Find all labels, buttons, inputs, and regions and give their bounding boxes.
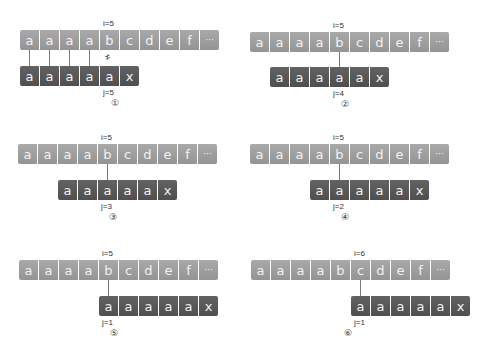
text-cell: ··· [431, 260, 450, 280]
text-cell: a [291, 260, 310, 280]
i-pointer-label: i=5 [333, 133, 344, 142]
pattern-cell: a [98, 180, 117, 200]
text-cell: a [39, 260, 58, 280]
match-connector [89, 50, 90, 66]
pattern-cell: a [350, 67, 369, 87]
step-number: ③ [109, 212, 117, 222]
text-cell: a [250, 144, 269, 164]
compare-connector [107, 164, 108, 180]
pattern-cell: a [78, 180, 97, 200]
mismatch-symbol: ≠ [103, 51, 111, 62]
text-cell: c [120, 30, 139, 50]
pattern-cell: a [310, 67, 329, 87]
text-cell: a [270, 32, 289, 52]
compare-connector [339, 164, 340, 180]
text-cell: a [271, 260, 290, 280]
pattern-cell: a [40, 66, 59, 86]
pattern-cell: x [199, 296, 218, 316]
text-cell: b [100, 30, 119, 50]
pattern-cell: a [60, 66, 79, 86]
text-cell: e [158, 144, 177, 164]
pattern-cell: a [390, 180, 409, 200]
pattern-cell: a [290, 67, 309, 87]
j-pointer-label: j=4 [333, 89, 344, 98]
j-pointer-label: j=3 [101, 202, 112, 211]
text-cell: c [350, 144, 369, 164]
text-cell: c [351, 260, 370, 280]
j-pointer-label: j=2 [333, 202, 344, 211]
pattern-cell: a [350, 180, 369, 200]
pattern-cell: a [20, 66, 39, 86]
match-connector [29, 50, 30, 66]
pattern-cell: a [371, 296, 390, 316]
pattern-cell: x [158, 180, 177, 200]
text-cell: a [58, 144, 77, 164]
pattern-cell: x [370, 67, 389, 87]
text-cell: a [250, 32, 269, 52]
i-pointer-label: i=5 [103, 19, 114, 28]
step-number: ① [111, 98, 119, 108]
pattern-cell: x [410, 180, 429, 200]
text-cell: a [251, 260, 270, 280]
step-number: ⑤ [110, 328, 118, 338]
text-cell: c [350, 32, 369, 52]
pattern-cell: a [431, 296, 450, 316]
text-cell: d [370, 144, 389, 164]
pattern-cell: a [100, 66, 119, 86]
text-cell: e [391, 260, 410, 280]
j-pointer-label: j=1 [102, 318, 113, 327]
text-cell: e [390, 144, 409, 164]
step-number: ⑥ [344, 328, 352, 338]
i-pointer-label: i=5 [333, 21, 344, 30]
text-cell: a [270, 144, 289, 164]
text-cell: e [390, 32, 409, 52]
text-cell: a [311, 260, 330, 280]
match-connector [69, 50, 70, 66]
text-cell: b [330, 32, 349, 52]
text-cell: f [179, 260, 198, 280]
text-cell: e [160, 30, 179, 50]
compare-connector [360, 280, 361, 296]
pattern-cell: a [139, 296, 158, 316]
text-cell: d [140, 30, 159, 50]
text-cell: e [159, 260, 178, 280]
pattern-string-row: aaaaax [58, 180, 178, 200]
text-cell: d [370, 32, 389, 52]
text-cell: a [18, 144, 37, 164]
pattern-string-row: aaaaax [310, 180, 430, 200]
text-cell: a [290, 32, 309, 52]
text-cell: a [38, 144, 57, 164]
text-cell: d [139, 260, 158, 280]
text-cell: a [80, 30, 99, 50]
text-cell: b [98, 144, 117, 164]
text-string-row: aaaabcdef··· [20, 30, 220, 50]
text-string-row: aaaabcdef··· [18, 144, 218, 164]
pattern-cell: a [58, 180, 77, 200]
pattern-cell: a [119, 296, 138, 316]
text-cell: ··· [430, 32, 449, 52]
text-cell: ··· [198, 144, 217, 164]
i-pointer-label: i=6 [354, 249, 365, 258]
text-cell: a [60, 30, 79, 50]
pattern-cell: a [330, 67, 349, 87]
text-string-row: aaaabcdef··· [250, 144, 450, 164]
step-number: ② [341, 99, 349, 109]
text-cell: b [99, 260, 118, 280]
text-cell: a [79, 260, 98, 280]
pattern-cell: a [118, 180, 137, 200]
pattern-cell: a [310, 180, 329, 200]
text-string-row: aaaabcdef··· [251, 260, 451, 280]
text-cell: f [180, 30, 199, 50]
text-cell: c [119, 260, 138, 280]
pattern-cell: a [159, 296, 178, 316]
text-cell: ··· [199, 260, 218, 280]
text-cell: f [411, 260, 430, 280]
text-cell: f [178, 144, 197, 164]
j-pointer-label: j=1 [354, 318, 365, 327]
pattern-cell: x [120, 66, 139, 86]
text-cell: a [40, 30, 59, 50]
pattern-cell: a [138, 180, 157, 200]
text-cell: ··· [430, 144, 449, 164]
pattern-cell: a [270, 67, 289, 87]
text-cell: b [331, 260, 350, 280]
